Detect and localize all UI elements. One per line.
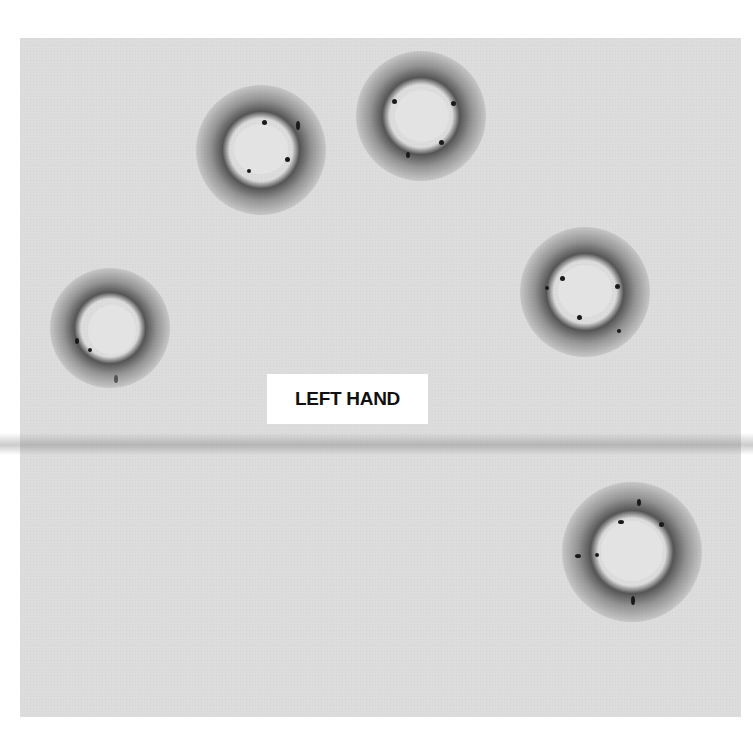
powder-speck bbox=[631, 596, 635, 605]
powder-speck bbox=[637, 499, 641, 506]
powder-speck bbox=[75, 338, 79, 344]
powder-speck bbox=[406, 152, 410, 158]
target-label: LEFT HAND bbox=[267, 374, 428, 424]
powder-speck bbox=[114, 375, 118, 383]
powder-speck bbox=[439, 140, 444, 145]
powder-speck bbox=[392, 99, 397, 104]
powder-speck bbox=[595, 553, 599, 557]
powder-speck bbox=[659, 522, 664, 527]
bullet-hole bbox=[395, 90, 449, 142]
powder-speck bbox=[247, 169, 251, 173]
bullet-hole bbox=[558, 265, 612, 317]
powder-speck bbox=[262, 120, 267, 125]
bullet-hole bbox=[601, 521, 663, 581]
powder-speck bbox=[296, 121, 300, 130]
powder-speck bbox=[577, 315, 582, 320]
bullet-hole bbox=[234, 124, 288, 174]
powder-speck bbox=[615, 284, 620, 289]
powder-speck bbox=[451, 101, 456, 106]
bullet-hole bbox=[88, 305, 136, 355]
powder-speck bbox=[560, 276, 565, 281]
powder-speck bbox=[545, 286, 549, 290]
powder-speck bbox=[617, 329, 621, 333]
powder-speck bbox=[88, 348, 92, 352]
powder-speck bbox=[285, 157, 290, 162]
fold-line bbox=[0, 433, 753, 455]
powder-speck bbox=[618, 520, 624, 524]
powder-speck bbox=[575, 554, 581, 558]
